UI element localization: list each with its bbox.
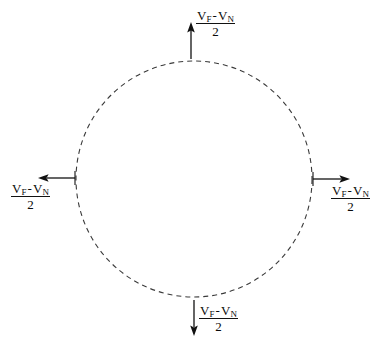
fraction-denominator: 2	[199, 319, 238, 333]
numerator-subscript-first: F	[210, 309, 215, 319]
force-label-top: VF-VN 2	[196, 9, 235, 38]
fraction-numerator: VF-VN	[196, 9, 235, 24]
arrow-top	[187, 22, 195, 59]
fraction-numerator: VF-VN	[331, 184, 370, 199]
numerator-subscript-second: N	[227, 14, 234, 24]
fraction-denominator: 2	[196, 24, 235, 38]
dashed-circle	[76, 61, 312, 297]
fraction-denominator: 2	[11, 197, 50, 211]
fraction-denominator: 2	[331, 199, 370, 213]
numerator-term-first: V	[12, 181, 22, 196]
numerator-subscript-second: N	[362, 189, 369, 199]
numerator-subscript-first: F	[22, 187, 27, 197]
arrow-bottom	[190, 300, 198, 336]
numerator-term-first: V	[197, 8, 207, 23]
force-label-right: VF-VN 2	[331, 184, 370, 213]
fraction-numerator: VF-VN	[11, 182, 50, 197]
force-label-left: VF-VN 2	[11, 182, 50, 211]
force-label-bottom: VF-VN 2	[199, 304, 238, 333]
diagram-svg	[0, 0, 392, 356]
diagram-canvas: VF-VN 2 VF-VN 2 VF-VN 2 VF-VN 2	[0, 0, 392, 356]
numerator-term-first: V	[200, 303, 210, 318]
numerator-subscript-second: N	[42, 187, 49, 197]
fraction-numerator: VF-VN	[199, 304, 238, 319]
numerator-subscript-second: N	[230, 309, 237, 319]
numerator-term-first: V	[332, 183, 342, 198]
numerator-subscript-first: F	[207, 14, 212, 24]
numerator-subscript-first: F	[342, 189, 347, 199]
